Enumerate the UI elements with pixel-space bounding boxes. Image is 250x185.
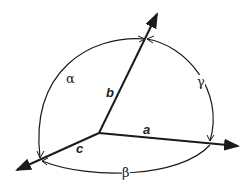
axis-a [99, 133, 238, 146]
label-c: c [76, 142, 83, 155]
arc-alpha [39, 39, 145, 158]
label-beta: β [122, 166, 130, 179]
label-gamma: γ [197, 75, 205, 88]
axis-b [99, 14, 157, 133]
arc-gamma [147, 39, 213, 141]
label-a: a [143, 123, 150, 136]
axis-c [17, 133, 99, 170]
label-b: b [106, 86, 114, 99]
label-alpha: α [66, 72, 75, 85]
arrowhead-icon [37, 151, 44, 158]
crystal-axes-diagram [0, 0, 250, 185]
